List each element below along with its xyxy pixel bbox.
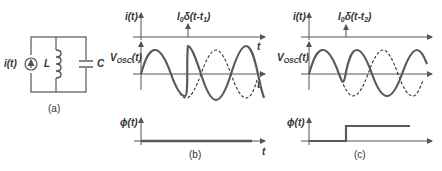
original-waveform-c <box>309 50 423 96</box>
phi-axis-label-c: ϕ(t) <box>287 117 305 128</box>
inductor-label: L <box>44 58 50 69</box>
capacitor-label: C <box>97 58 105 69</box>
perturbed-waveform-b2 <box>141 46 264 100</box>
t-label-b1: t <box>257 41 261 52</box>
caption-a: (a) <box>48 103 60 114</box>
lc-tank-circuit: i(t) L C (a) <box>4 37 105 114</box>
caption-b: (b) <box>189 149 201 160</box>
i-axis-label-b: i(t) <box>125 11 138 22</box>
phi-axis-label-b: ϕ(t) <box>120 117 138 128</box>
impulse-label-b: I0δ(t-t1) <box>177 11 211 23</box>
impulse-label-c: I0δ(t-t2) <box>338 11 372 23</box>
inductor-icon <box>56 37 61 92</box>
caption-c: (c) <box>354 149 366 160</box>
v-axis-label-c: VOSC(t) <box>277 52 310 64</box>
panel-c: i(t) I0δ(t-t2) VOSC(t) ϕ(t) (c) <box>277 11 432 160</box>
v-axis-label-b: VOSC(t) <box>110 52 143 64</box>
source-label: i(t) <box>4 58 17 69</box>
panel-b: i(t) I0δ(t-t1) t VOSC(t) t ϕ(t) t (b) <box>110 11 266 160</box>
i-axis-label-c: i(t) <box>293 11 306 22</box>
t-label-b3: t <box>262 146 266 157</box>
capacitor-icon <box>78 60 94 68</box>
current-source-icon <box>24 55 38 73</box>
figure-canvas: i(t) L C (a) i(t) I0δ(t-t1) t VOSC(t) t … <box>0 0 442 171</box>
phase-step-c <box>309 126 410 141</box>
shifted-waveform-c-final <box>309 50 427 96</box>
